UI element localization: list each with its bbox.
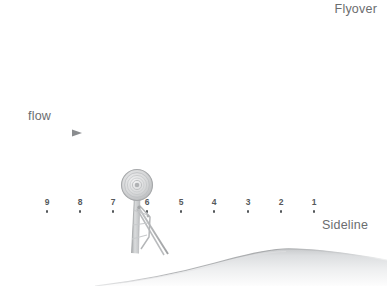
- station-number-label: 3: [239, 198, 257, 207]
- station-number-label: 2: [272, 198, 290, 207]
- station-marker-dot: [79, 210, 82, 213]
- station-marker-dot: [280, 210, 283, 213]
- sideline-station-3[interactable]: 3: [239, 198, 257, 213]
- station-marker-dot: [247, 210, 250, 213]
- sideline-station-9[interactable]: 9: [38, 198, 56, 213]
- sideline-station-2[interactable]: 2: [272, 198, 290, 213]
- station-marker-dot: [213, 210, 216, 213]
- station-marker-dot: [313, 210, 316, 213]
- station-number-label: 1: [305, 198, 323, 207]
- sideline-station-4[interactable]: 4: [205, 198, 223, 213]
- wind-turbine-illustration: [108, 165, 198, 260]
- flow-direction-arrow-icon: [14, 124, 84, 140]
- station-number-label: 9: [38, 198, 56, 207]
- station-number-label: 4: [205, 198, 223, 207]
- station-marker-dot: [46, 210, 49, 213]
- flow-label: flow: [28, 110, 51, 123]
- flyover-label: Flyover: [335, 3, 377, 16]
- station-number-label: 8: [71, 198, 89, 207]
- sideline-station-8[interactable]: 8: [71, 198, 89, 213]
- sideline-station-1[interactable]: 1: [305, 198, 323, 213]
- turbine-rotor-disc: [122, 170, 153, 201]
- figure-canvas: Flyover flow Sideline 987654321: [0, 0, 387, 286]
